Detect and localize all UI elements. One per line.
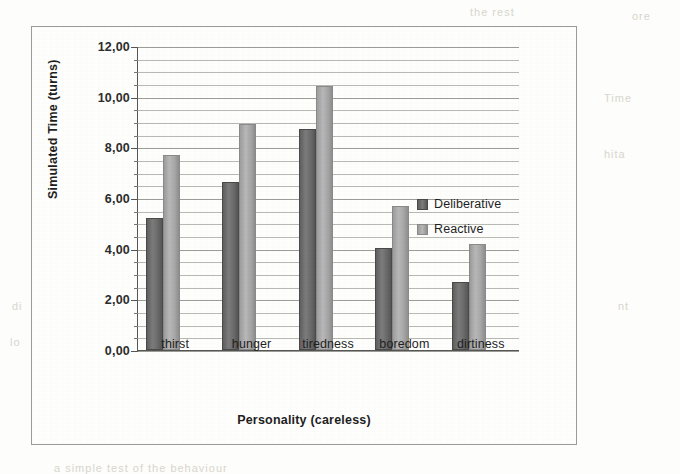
scan-artifact-text: the rest bbox=[470, 6, 515, 18]
y-tick-major bbox=[131, 351, 138, 352]
x-tick-label-boredom: boredom bbox=[379, 337, 429, 351]
y-axis-title: Simulated Time (turns) bbox=[46, 59, 60, 199]
y-tick-label: 2,00 bbox=[74, 293, 130, 307]
legend-item-reactive: Reactive bbox=[417, 222, 501, 236]
y-tick-major bbox=[131, 300, 138, 301]
y-tick-label: 4,00 bbox=[74, 243, 130, 257]
scan-artifact-text: hita bbox=[604, 148, 626, 160]
bar-deliberative-tiredness bbox=[299, 129, 316, 350]
bar-reactive-boredom bbox=[392, 206, 409, 350]
y-tick-major bbox=[131, 47, 138, 48]
y-tick-major bbox=[131, 199, 138, 200]
figure-frame: 0,002,004,006,008,0010,0012,00 Simulated… bbox=[31, 26, 577, 445]
gridline-major bbox=[138, 351, 519, 352]
legend-label-deliberative: Deliberative bbox=[434, 197, 501, 211]
bar-reactive-hunger bbox=[239, 124, 256, 350]
scan-artifact-text: nt bbox=[618, 300, 629, 312]
bar-deliberative-thirst bbox=[146, 218, 163, 350]
legend-swatch-reactive-icon bbox=[417, 224, 428, 235]
legend-label-reactive: Reactive bbox=[434, 222, 483, 236]
chart-legend: Deliberative Reactive bbox=[417, 197, 501, 247]
legend-swatch-deliberative-icon bbox=[417, 199, 428, 210]
x-tick-label-tiredness: tiredness bbox=[302, 337, 354, 351]
y-tick-major bbox=[131, 250, 138, 251]
y-tick-label: 0,00 bbox=[74, 344, 130, 358]
scan-artifact-text: ore bbox=[632, 10, 651, 22]
scan-artifact-text: di bbox=[12, 300, 23, 312]
bar-group bbox=[214, 47, 290, 350]
y-tick-label: 10,00 bbox=[74, 91, 130, 105]
bar-reactive-tiredness bbox=[316, 86, 333, 350]
scan-artifact-text: lo bbox=[10, 336, 21, 348]
x-tick-label-thirst: thirst bbox=[161, 337, 189, 351]
y-tick-major bbox=[131, 148, 138, 149]
bar-reactive-thirst bbox=[163, 155, 180, 350]
bar-group bbox=[291, 47, 367, 350]
scan-artifact-text: Time bbox=[604, 92, 632, 104]
x-axis-title: Personality (careless) bbox=[32, 413, 576, 427]
scan-artifact-text: a simple test of the behaviour bbox=[54, 462, 228, 474]
y-tick-label: 12,00 bbox=[74, 40, 130, 54]
bar-group bbox=[138, 47, 214, 350]
y-tick-label: 6,00 bbox=[74, 192, 130, 206]
bar-deliberative-hunger bbox=[222, 182, 239, 350]
y-tick-label: 8,00 bbox=[74, 141, 130, 155]
x-tick-label-hunger: hunger bbox=[232, 337, 272, 351]
bar-deliberative-boredom bbox=[375, 248, 392, 350]
x-tick-label-dirtiness: dirtiness bbox=[457, 337, 504, 351]
y-tick-major bbox=[131, 98, 138, 99]
legend-item-deliberative: Deliberative bbox=[417, 197, 501, 211]
bar-reactive-dirtiness bbox=[469, 244, 486, 350]
